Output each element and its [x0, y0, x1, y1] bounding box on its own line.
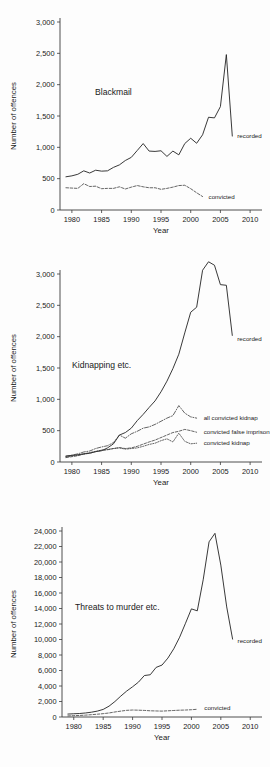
y-axis-title: Number of offences — [9, 82, 18, 150]
y-axis-title: Number of offences — [9, 590, 18, 658]
series-line-recorded — [66, 262, 232, 456]
y-tick-label: 12,000 — [34, 620, 57, 629]
y-tick-label: 1,500 — [36, 364, 55, 373]
series-line-convicted — [66, 184, 203, 197]
y-tick-label: 8,000 — [38, 651, 57, 660]
series-label-recorded: recorded — [237, 132, 262, 139]
y-tick-label: 3,000 — [36, 18, 55, 27]
y-tick-label: 0 — [52, 713, 56, 722]
y-axis-title: Number of offences — [9, 334, 18, 402]
x-tick-label: 2010 — [242, 722, 258, 731]
y-tick-label: 14,000 — [34, 604, 57, 613]
y-tick-label: 0 — [50, 206, 54, 215]
x-tick-label: 2005 — [213, 722, 229, 731]
x-tick-label: 1995 — [153, 215, 169, 224]
x-tick-label: 1995 — [154, 722, 170, 731]
y-tick-label: 10,000 — [34, 635, 57, 644]
y-tick-label: 500 — [42, 426, 54, 435]
chart-panel-kidnapping: 05001,0001,5002,0002,5003,00019801985199… — [0, 256, 270, 512]
y-tick-label: 4,000 — [38, 682, 57, 691]
y-tick-label: 1,000 — [36, 143, 55, 152]
chart-title: Kidnapping etc. — [72, 360, 131, 370]
series-label-convicted-kidnap: convicted kidnap — [204, 439, 251, 446]
x-tick-label: 1980 — [66, 722, 82, 731]
x-tick-label: 1980 — [64, 467, 80, 476]
x-axis-title: Year — [153, 226, 169, 235]
chart-panel-blackmail: 05001,0001,5002,0002,5003,00019801985199… — [0, 0, 270, 256]
x-tick-label: 2005 — [212, 215, 228, 224]
x-tick-label: 1985 — [95, 722, 111, 731]
x-tick-label: 1995 — [153, 467, 169, 476]
chart-svg-1: 05001,0001,5002,0002,5003,00019801985199… — [0, 256, 270, 512]
y-tick-label: 500 — [42, 174, 54, 183]
chart-svg-0: 05001,0001,5002,0002,5003,00019801985199… — [0, 0, 270, 256]
y-tick-label: 0 — [50, 458, 54, 467]
series-label-recorded: recorded — [238, 637, 263, 644]
y-tick-label: 2,000 — [36, 80, 55, 89]
series-label-recorded: recorded — [237, 335, 262, 342]
chart-title: Threats to murder etc. — [75, 602, 160, 612]
chart-title: Blackmail — [95, 87, 132, 97]
x-tick-label: 1990 — [123, 215, 139, 224]
chart-svg-2: 02,0004,0006,0008,00010,00012,00014,0001… — [0, 511, 270, 767]
x-axis-title: Year — [153, 478, 169, 487]
y-tick-label: 24,000 — [34, 527, 57, 536]
offences-figure: 05001,0001,5002,0002,5003,00019801985199… — [0, 0, 270, 767]
y-tick-label: 3,000 — [36, 270, 55, 279]
x-tick-label: 1980 — [64, 215, 80, 224]
x-tick-label: 2010 — [242, 215, 258, 224]
series-label-convicted: convicted — [204, 704, 231, 711]
y-tick-label: 16,000 — [34, 589, 57, 598]
x-tick-label: 2000 — [183, 722, 199, 731]
y-tick-label: 6,000 — [38, 666, 57, 675]
series-label-all-convicted-kidnap: all convicted kidnap — [204, 414, 259, 421]
x-tick-label: 1990 — [123, 467, 139, 476]
x-tick-label: 2000 — [182, 467, 198, 476]
chart-panel-threats-to-murder: 02,0004,0006,0008,00010,00012,00014,0001… — [0, 511, 270, 767]
x-tick-label: 2000 — [182, 215, 198, 224]
x-axis-title: Year — [154, 733, 170, 742]
y-tick-label: 20,000 — [34, 558, 57, 567]
x-tick-label: 1990 — [124, 722, 140, 731]
series-label-convicted-false-imprison: convicted false imprison — [204, 428, 270, 435]
y-tick-label: 1,500 — [36, 112, 55, 121]
y-tick-label: 2,500 — [36, 301, 55, 310]
y-tick-label: 2,000 — [36, 332, 55, 341]
y-tick-label: 2,000 — [38, 697, 57, 706]
series-line-recorded — [66, 55, 232, 177]
y-tick-label: 1,000 — [36, 395, 55, 404]
y-tick-label: 22,000 — [34, 542, 57, 551]
x-tick-label: 2010 — [242, 467, 258, 476]
y-tick-label: 2,500 — [36, 49, 55, 58]
series-label-convicted: convicted — [209, 193, 236, 200]
x-tick-label: 1985 — [93, 215, 109, 224]
series-line-recorded — [68, 533, 233, 714]
x-tick-label: 1985 — [93, 467, 109, 476]
y-tick-label: 18,000 — [34, 573, 57, 582]
x-tick-label: 2005 — [212, 467, 228, 476]
